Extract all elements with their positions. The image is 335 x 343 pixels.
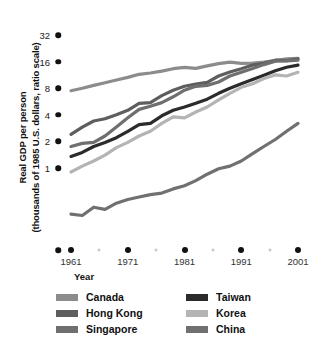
x-tick-label-1991: 1991	[231, 256, 252, 267]
x-tick-dot-2001	[295, 247, 301, 253]
x-minor-tick-dot-1986	[211, 249, 214, 252]
legend-swatch-icon	[186, 294, 208, 301]
x-minor-tick-dot-1976	[155, 249, 158, 252]
chart-figure: Real GDP per person (thousands of 1985 U…	[0, 0, 335, 343]
y-tick-dot-4	[55, 112, 61, 118]
legend-item-hong-kong[interactable]: Hong Kong	[56, 307, 186, 320]
x-minor-tick-dot-1996	[268, 249, 271, 252]
y-tick-dot-2	[55, 139, 61, 145]
series-line-hong-kong	[71, 59, 298, 135]
y-tick-dot-8	[55, 85, 61, 91]
legend-item-china[interactable]: China	[186, 323, 316, 336]
y-tick-dot-16	[55, 59, 61, 65]
y-tick-label-16: 16	[26, 56, 50, 67]
legend-label: Hong Kong	[86, 307, 143, 320]
legend-swatch-icon	[186, 326, 208, 333]
legend-column-left: CanadaHong KongSingapore	[56, 291, 186, 339]
legend-label: Canada	[86, 291, 124, 304]
legend-item-taiwan[interactable]: Taiwan	[186, 291, 316, 304]
chart-legend: CanadaHong KongSingapore TaiwanKoreaChin…	[56, 291, 316, 339]
legend-column-right: TaiwanKoreaChina	[186, 291, 316, 339]
y-tick-dot-32	[55, 32, 61, 38]
x-tick-label-2001: 2001	[287, 256, 308, 267]
legend-label: Taiwan	[216, 291, 251, 304]
x-tick-dot-1971	[125, 247, 131, 253]
x-tick-dot-1981	[182, 247, 188, 253]
y-tick-label-1: 1	[26, 163, 50, 174]
legend-item-canada[interactable]: Canada	[56, 291, 186, 304]
legend-item-singapore[interactable]: Singapore	[56, 323, 186, 336]
y-tick-label-2: 2	[26, 136, 50, 147]
y-tick-dot-1	[55, 165, 61, 171]
legend-swatch-icon	[56, 326, 78, 333]
legend-label: Singapore	[86, 323, 137, 336]
x-tick-label-1961: 1961	[60, 256, 81, 267]
y-tick-label-32: 32	[26, 30, 50, 41]
x-minor-tick-dot-1966	[98, 249, 101, 252]
legend-label: China	[216, 323, 245, 336]
x-tick-label-1971: 1971	[117, 256, 138, 267]
y-tick-label-4: 4	[26, 109, 50, 120]
legend-swatch-icon	[56, 294, 78, 301]
legend-swatch-icon	[56, 310, 78, 317]
x-tick-label-1981: 1981	[174, 256, 195, 267]
x-tick-dot-1991	[238, 247, 244, 253]
legend-item-korea[interactable]: Korea	[186, 307, 316, 320]
x-axis-title: Year	[74, 271, 94, 282]
x-tick-dot-1961	[68, 247, 74, 253]
axis-origin-dot	[55, 247, 61, 253]
y-tick-label-8: 8	[26, 83, 50, 94]
series-line-singapore	[71, 60, 298, 146]
legend-label: Korea	[216, 307, 246, 320]
legend-swatch-icon	[186, 310, 208, 317]
